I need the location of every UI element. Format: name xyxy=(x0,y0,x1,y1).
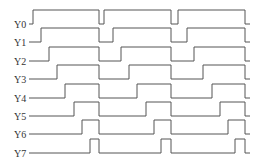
signal-label: Y1 xyxy=(14,37,26,48)
signal-label: Y4 xyxy=(14,93,26,104)
signal-waveform xyxy=(29,10,250,24)
signal-label: Y7 xyxy=(14,148,26,159)
signal-y0: Y0 xyxy=(14,10,250,30)
signal-waveform xyxy=(29,65,250,79)
signal-label: Y3 xyxy=(14,74,26,85)
signal-waveform xyxy=(29,120,250,134)
signal-waveform xyxy=(29,139,250,153)
signal-label: Y0 xyxy=(14,19,26,30)
signal-waveform xyxy=(29,28,250,42)
signal-label: Y6 xyxy=(14,129,26,140)
timing-diagram: Y0Y1Y2Y3Y4Y5Y6Y7 xyxy=(0,0,265,167)
signal-y5: Y5 xyxy=(14,102,250,122)
signal-y1: Y1 xyxy=(14,28,250,48)
signal-waveform xyxy=(29,84,250,98)
signal-label: Y5 xyxy=(14,111,26,122)
signal-waveform xyxy=(29,47,250,61)
signal-y6: Y6 xyxy=(14,120,250,140)
signal-y7: Y7 xyxy=(14,139,250,159)
signal-y3: Y3 xyxy=(14,65,250,85)
signal-label: Y2 xyxy=(14,56,26,67)
signal-waveform xyxy=(29,102,250,116)
signal-y2: Y2 xyxy=(14,47,250,67)
signal-y4: Y4 xyxy=(14,84,250,104)
